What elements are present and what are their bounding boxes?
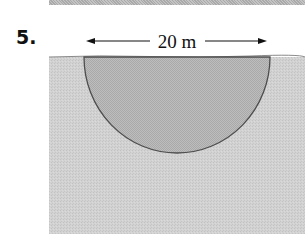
arrow-right-head-icon	[258, 38, 267, 44]
semicircle-plate-diagram: 20 m	[0, 0, 305, 234]
arrow-left-head-icon	[86, 38, 95, 44]
dimension-label: 20 m	[158, 31, 197, 52]
dimension-arrow: 20 m	[86, 31, 267, 52]
